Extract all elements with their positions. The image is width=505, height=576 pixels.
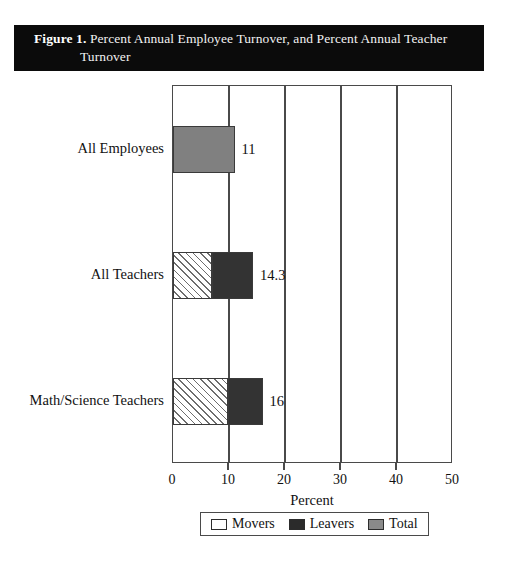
x-tick-label: 0 — [169, 472, 176, 488]
legend-swatch-icon — [289, 519, 305, 530]
category-label: All Teachers — [91, 266, 164, 283]
x-tick-label: 10 — [221, 472, 235, 488]
x-tick-40 — [395, 463, 396, 470]
chart-legend: MoversLeaversTotal — [200, 512, 429, 536]
bar-value-label: 11 — [242, 141, 256, 158]
category-label: All Employees — [77, 140, 164, 157]
legend-item-total: Total — [368, 516, 418, 532]
plot-box: 1114.316 — [172, 85, 452, 463]
x-axis-title: Percent — [172, 492, 452, 509]
bar-segment-movers — [173, 378, 228, 425]
x-tick-10 — [227, 463, 228, 470]
legend-swatch-icon — [368, 519, 384, 530]
legend-item-leavers: Leavers — [289, 516, 354, 532]
bar-value-label: 14.3 — [260, 267, 285, 284]
chart-area: All EmployeesAll TeachersMath/Science Te… — [14, 71, 484, 556]
figure-caption-line-1: Percent Annual Employee Turnover, and Pe… — [90, 31, 447, 46]
bar-segment-leavers — [228, 378, 263, 425]
x-tick-label: 20 — [277, 472, 291, 488]
legend-label: Leavers — [310, 516, 354, 532]
x-tick-label: 50 — [445, 472, 459, 488]
bar-segment-total — [173, 126, 235, 173]
bar-row: 16 — [173, 378, 453, 425]
figure-caption: Figure 1. Percent Annual Employee Turnov… — [34, 30, 470, 66]
bar-value-label: 16 — [270, 393, 285, 410]
x-tick-label: 40 — [389, 472, 403, 488]
figure-caption-band: Figure 1. Percent Annual Employee Turnov… — [14, 25, 484, 71]
legend-label: Total — [389, 516, 418, 532]
category-label: Math/Science Teachers — [30, 392, 164, 409]
figure-number-label: Figure 1. — [34, 31, 86, 46]
legend-item-movers: Movers — [211, 516, 275, 532]
y-axis-category-labels: All EmployeesAll TeachersMath/Science Te… — [14, 85, 164, 463]
legend-label: Movers — [232, 516, 275, 532]
bar-row: 14.3 — [173, 252, 453, 299]
x-tick-30 — [339, 463, 340, 470]
x-tick-20 — [283, 463, 284, 470]
x-axis: 01020304050 — [172, 463, 452, 495]
figure-caption-line-2: Turnover — [80, 48, 470, 66]
bar-segment-leavers — [212, 252, 253, 299]
legend-swatch-icon — [211, 519, 227, 530]
x-tick-label: 30 — [333, 472, 347, 488]
bar-row: 11 — [173, 126, 453, 173]
bar-segment-movers — [173, 252, 212, 299]
